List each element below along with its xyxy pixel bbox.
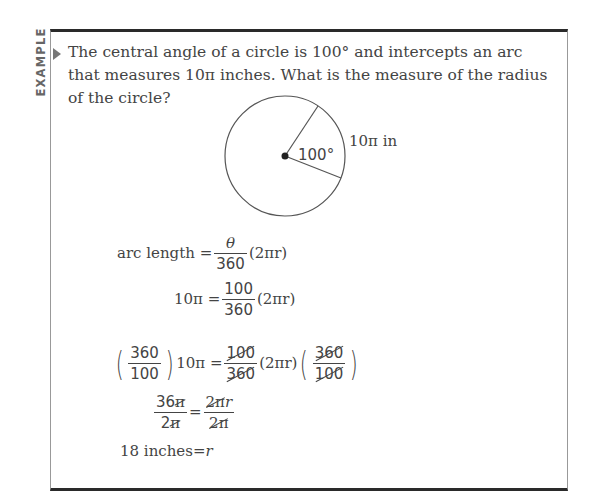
angle-label: 100°: [298, 146, 334, 164]
equation-arc-length: arc length =θ360(2πr): [117, 233, 287, 274]
equation-simplify: 36π2π=2πr2π: [152, 392, 236, 433]
arc-label: 10π in: [349, 132, 398, 150]
equation-substitute: 10π =100360(2πr): [174, 279, 295, 320]
equation-result: 18 inches=r: [120, 442, 213, 460]
circle-diagram: 100° 10π in: [0, 0, 598, 503]
equation-multiply: (360100)10π =100360(2πr)(360100): [113, 343, 361, 384]
